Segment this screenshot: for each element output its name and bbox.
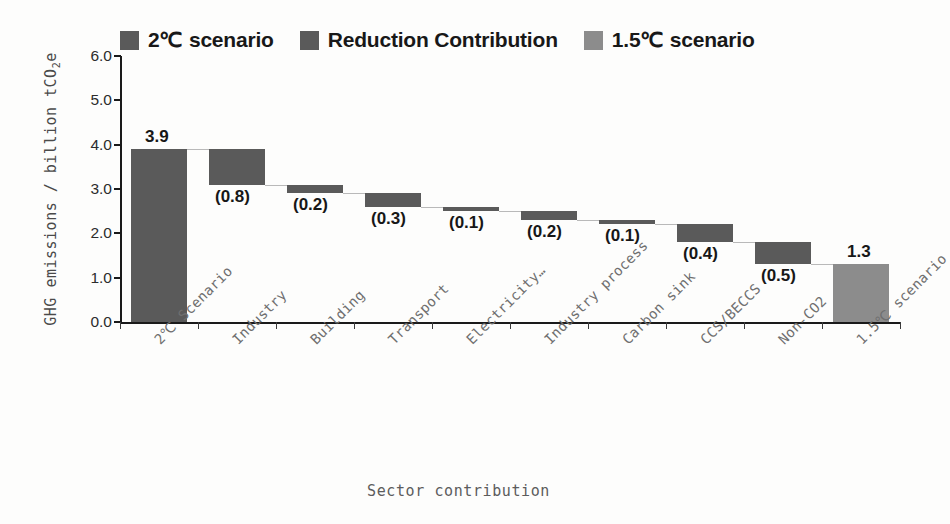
y-tick bbox=[114, 144, 121, 146]
plot-area: 0.01.02.03.04.05.06.0 3.9(0.8)(0.2)(0.3)… bbox=[120, 56, 900, 322]
y-tick bbox=[114, 188, 121, 190]
waterfall-connector bbox=[577, 220, 599, 221]
y-tick-label: 6.0 bbox=[90, 47, 112, 65]
legend-label: 1.5℃ scenario bbox=[612, 28, 755, 52]
waterfall-connector bbox=[811, 264, 833, 265]
bar-value-label: 3.9 bbox=[145, 127, 169, 147]
y-axis-title-main: GHG emissions / billion tCO bbox=[42, 68, 60, 325]
x-tick bbox=[198, 322, 199, 329]
bar-value-label: (0.2) bbox=[293, 195, 328, 215]
x-tick bbox=[276, 322, 277, 329]
y-tick-label: 5.0 bbox=[90, 91, 112, 109]
y-tick bbox=[114, 277, 121, 279]
legend-swatch-icon bbox=[300, 31, 319, 50]
y-axis-title-wrap: GHG emissions / billion tCO2e bbox=[24, 56, 80, 322]
waterfall-delta-bar[interactable] bbox=[209, 149, 265, 184]
legend-item-2c-scenario[interactable]: 2℃ scenario bbox=[120, 28, 274, 52]
waterfall-delta-bar[interactable] bbox=[287, 185, 343, 194]
y-axis-title-sub: 2 bbox=[51, 62, 62, 69]
y-tick bbox=[114, 55, 121, 57]
y-tick-label: 1.0 bbox=[90, 269, 112, 287]
x-tick bbox=[120, 322, 121, 329]
waterfall-total-bar[interactable] bbox=[131, 149, 187, 322]
x-tick bbox=[588, 322, 589, 329]
waterfall-connector bbox=[421, 207, 443, 208]
bar-value-label: (0.1) bbox=[449, 213, 484, 233]
waterfall-delta-bar[interactable] bbox=[443, 207, 499, 211]
waterfall-connector bbox=[655, 224, 677, 225]
bar-value-label: 1.3 bbox=[847, 242, 871, 262]
legend-swatch-icon bbox=[120, 31, 139, 50]
waterfall-connector bbox=[343, 193, 365, 194]
x-tick bbox=[900, 322, 901, 329]
x-tick bbox=[744, 322, 745, 329]
legend-label: Reduction Contribution bbox=[328, 28, 558, 52]
bar-value-label: (0.5) bbox=[761, 266, 796, 286]
x-tick bbox=[822, 322, 823, 329]
bar-value-label: (0.3) bbox=[371, 209, 406, 229]
chart-legend: 2℃ scenario Reduction Contribution 1.5℃ … bbox=[120, 28, 755, 52]
legend-item-15c-scenario[interactable]: 1.5℃ scenario bbox=[584, 28, 755, 52]
y-axis-title-tail: e bbox=[42, 52, 60, 62]
x-tick bbox=[666, 322, 667, 329]
waterfall-connector bbox=[265, 185, 287, 186]
x-axis-title: Sector contribution bbox=[0, 482, 917, 500]
waterfall-delta-bar[interactable] bbox=[677, 224, 733, 242]
y-tick-label: 0.0 bbox=[90, 313, 112, 331]
waterfall-connector bbox=[187, 149, 209, 150]
waterfall-delta-bar[interactable] bbox=[599, 220, 655, 224]
y-tick-label: 2.0 bbox=[90, 224, 112, 242]
waterfall-connector bbox=[733, 242, 755, 243]
bar-value-label: (0.8) bbox=[215, 187, 250, 207]
waterfall-delta-bar[interactable] bbox=[365, 193, 421, 206]
y-tick bbox=[114, 99, 121, 101]
bar-value-label: (0.4) bbox=[683, 244, 718, 264]
y-tick-label: 3.0 bbox=[90, 180, 112, 198]
legend-swatch-icon bbox=[584, 31, 603, 50]
y-tick bbox=[114, 232, 121, 234]
legend-label: 2℃ scenario bbox=[148, 28, 274, 52]
waterfall-connector bbox=[499, 211, 521, 212]
waterfall-delta-bar[interactable] bbox=[521, 211, 577, 220]
x-tick bbox=[432, 322, 433, 329]
y-axis-title: GHG emissions / billion tCO2e bbox=[42, 52, 62, 325]
waterfall-delta-bar[interactable] bbox=[755, 242, 811, 264]
y-tick-label: 4.0 bbox=[90, 136, 112, 154]
bar-value-label: (0.2) bbox=[527, 222, 562, 242]
legend-item-reduction-contribution[interactable]: Reduction Contribution bbox=[300, 28, 558, 52]
x-tick bbox=[510, 322, 511, 329]
x-tick bbox=[354, 322, 355, 329]
